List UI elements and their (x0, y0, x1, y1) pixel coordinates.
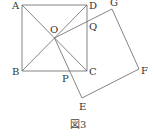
label-c: C (89, 66, 97, 77)
geometry-figure: A D G O Q B C P F E 図3 (0, 0, 156, 138)
label-q: Q (89, 21, 97, 32)
label-g: G (110, 0, 118, 8)
label-p: P (62, 73, 69, 84)
figure-caption: 図3 (70, 119, 86, 130)
label-a: A (11, 0, 20, 11)
label-e: E (79, 101, 86, 112)
label-o: O (50, 24, 58, 35)
label-d: D (89, 0, 97, 11)
label-f: F (141, 65, 148, 76)
label-b: B (12, 66, 19, 77)
